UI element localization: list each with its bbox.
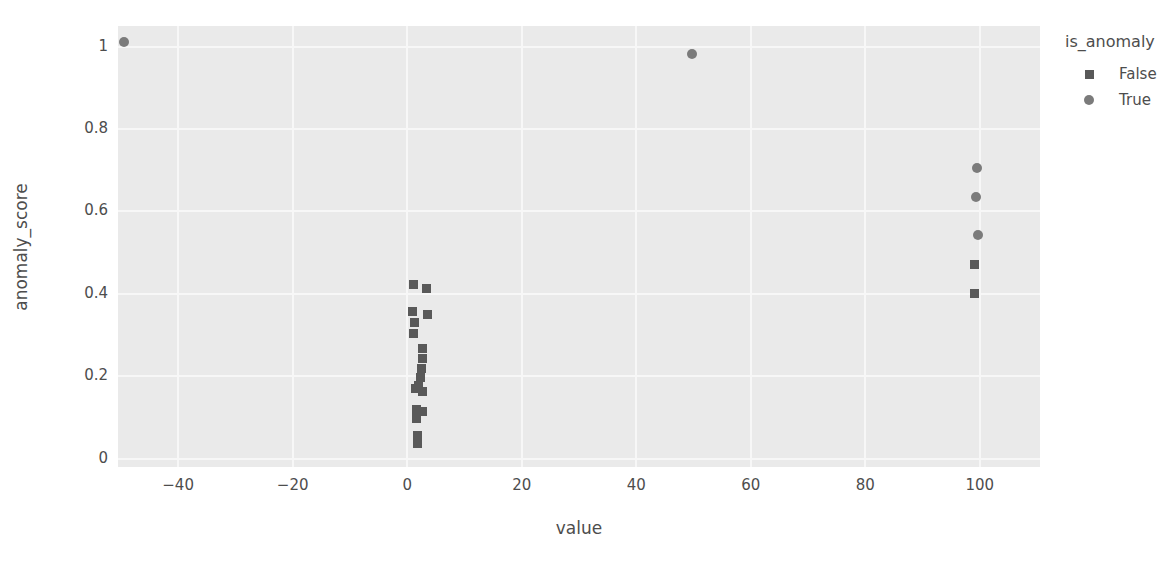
data-point-false — [410, 318, 419, 327]
data-point-false — [422, 284, 431, 293]
y-axis-tick-label: 0.6 — [58, 201, 108, 219]
data-point-false — [418, 344, 427, 353]
gridline-horizontal — [118, 46, 1040, 48]
gridline-horizontal — [118, 293, 1040, 295]
gridline-vertical — [406, 26, 408, 467]
x-axis-tick-label: 60 — [721, 476, 781, 494]
gridline-vertical — [979, 26, 981, 467]
x-axis-tick-label: 80 — [835, 476, 895, 494]
legend-entries: FalseTrue — [1065, 61, 1175, 113]
data-point-false — [423, 310, 432, 319]
data-point-true — [972, 163, 982, 173]
gridline-vertical — [177, 26, 179, 467]
gridline-vertical — [635, 26, 637, 467]
legend-item-label: True — [1119, 91, 1151, 109]
data-point-false — [418, 387, 427, 396]
data-point-false — [970, 289, 979, 298]
data-point-false — [413, 439, 422, 448]
gridline-vertical — [750, 26, 752, 467]
gridline-vertical — [521, 26, 523, 467]
legend-item-label: False — [1119, 65, 1157, 83]
x-axis-tick-label: 0 — [377, 476, 437, 494]
legend-title: is_anomaly — [1065, 32, 1175, 51]
data-point-false — [417, 364, 426, 373]
y-axis-tick-label: 0.8 — [58, 119, 108, 137]
data-point-false — [409, 280, 418, 289]
legend-swatch-shape — [1084, 95, 1094, 105]
data-point-false — [418, 354, 427, 363]
y-axis-tick-label: 0.4 — [58, 284, 108, 302]
y-axis-tick-label: 0 — [58, 449, 108, 467]
gridline-horizontal — [118, 458, 1040, 460]
legend: is_anomaly FalseTrue — [1065, 32, 1175, 113]
gridline-vertical — [864, 26, 866, 467]
scatter-chart-figure: value anomaly_score is_anomaly FalseTrue… — [0, 0, 1175, 567]
data-point-true — [687, 49, 697, 59]
plot-area — [118, 26, 1040, 467]
gridline-vertical — [292, 26, 294, 467]
data-point-false — [409, 329, 418, 338]
legend-marker-circle-icon — [1079, 95, 1099, 105]
x-axis-label: value — [118, 518, 1040, 538]
legend-item-true[interactable]: True — [1065, 87, 1175, 113]
data-point-false — [412, 414, 421, 423]
x-axis-tick-label: 100 — [950, 476, 1010, 494]
x-axis-tick-label: 20 — [492, 476, 552, 494]
legend-swatch-shape — [1085, 70, 1094, 79]
y-axis-label: anomaly_score — [10, 26, 32, 467]
gridline-horizontal — [118, 210, 1040, 212]
x-axis-tick-label: 40 — [606, 476, 666, 494]
legend-marker-square-icon — [1079, 70, 1099, 79]
data-point-true — [973, 230, 983, 240]
x-axis-tick-label: −40 — [148, 476, 208, 494]
legend-item-false[interactable]: False — [1065, 61, 1175, 87]
y-axis-label-text: anomaly_score — [11, 183, 31, 311]
x-axis-tick-label: −20 — [263, 476, 323, 494]
gridline-horizontal — [118, 128, 1040, 130]
y-axis-tick-label: 0.2 — [58, 366, 108, 384]
gridline-horizontal — [118, 375, 1040, 377]
data-point-false — [970, 260, 979, 269]
y-axis-tick-label: 1 — [58, 37, 108, 55]
data-point-false — [408, 307, 417, 316]
